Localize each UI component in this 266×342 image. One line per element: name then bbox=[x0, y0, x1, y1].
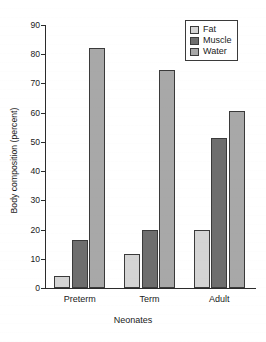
y-axis-tick-label: 80 bbox=[16, 50, 40, 59]
legend-swatch-icon bbox=[190, 48, 199, 56]
bar bbox=[142, 230, 158, 288]
bar bbox=[89, 48, 105, 288]
x-axis-category-label: Adult bbox=[179, 294, 259, 304]
bar bbox=[211, 138, 227, 288]
y-axis-tick-label: 30 bbox=[16, 196, 40, 205]
legend-item-label: Water bbox=[203, 47, 227, 56]
y-axis-tick-label: 0 bbox=[16, 284, 40, 293]
y-axis-tick-mark bbox=[41, 25, 45, 26]
x-axis-category-label: Term bbox=[110, 294, 190, 304]
y-axis-tick-label: 20 bbox=[16, 225, 40, 234]
y-axis-tick-label: 40 bbox=[16, 167, 40, 176]
y-axis-tick-mark bbox=[41, 171, 45, 172]
bar bbox=[54, 276, 70, 288]
y-axis-tick-mark bbox=[41, 142, 45, 143]
chart-figure: Body composition (percent) 0102030405060… bbox=[0, 0, 266, 342]
y-axis-tick-label: 10 bbox=[16, 254, 40, 263]
legend-item-label: Muscle bbox=[203, 36, 232, 45]
legend-swatch-icon bbox=[190, 26, 199, 34]
bar bbox=[229, 111, 245, 288]
y-axis-tick-mark bbox=[41, 288, 45, 289]
y-axis-tick-label: 70 bbox=[16, 79, 40, 88]
y-axis-tick-label: 60 bbox=[16, 108, 40, 117]
y-axis-tick-mark bbox=[41, 230, 45, 231]
y-axis-tick-labels: 0102030405060708090 bbox=[10, 0, 40, 342]
legend-item: Fat bbox=[190, 24, 232, 35]
legend-item: Muscle bbox=[190, 35, 232, 46]
y-axis-tick-mark bbox=[41, 113, 45, 114]
bar bbox=[72, 240, 88, 288]
bar bbox=[124, 254, 140, 288]
x-axis-line bbox=[45, 288, 256, 289]
legend-swatch-icon bbox=[190, 37, 199, 45]
bar bbox=[194, 230, 210, 288]
legend-item-label: Fat bbox=[203, 25, 216, 34]
y-axis-tick-mark bbox=[41, 259, 45, 260]
chart-legend: FatMuscleWater bbox=[185, 20, 238, 61]
y-axis-tick-mark bbox=[41, 200, 45, 201]
x-axis-title: Neonates bbox=[0, 315, 266, 325]
y-axis-tick-label: 90 bbox=[16, 21, 40, 30]
y-axis-tick-label: 50 bbox=[16, 138, 40, 147]
plot-area bbox=[45, 25, 254, 288]
y-axis-tick-mark bbox=[41, 54, 45, 55]
y-axis-tick-mark bbox=[41, 83, 45, 84]
bar bbox=[159, 70, 175, 288]
legend-item: Water bbox=[190, 46, 232, 57]
x-axis-category-label: Preterm bbox=[40, 294, 120, 304]
